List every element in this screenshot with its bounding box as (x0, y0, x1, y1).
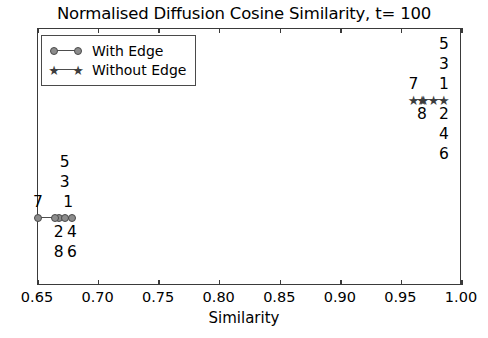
x-tick-mark-top (98, 28, 99, 33)
star-marker-icon: ★ ★ (49, 63, 83, 77)
chart-title: Normalised Diffusion Cosine Similarity, … (0, 4, 488, 23)
point-label: 8 (54, 245, 64, 261)
x-tick-label: 0.80 (193, 289, 245, 305)
legend-item-without-edge[interactable]: ★ ★ Without Edge (49, 60, 186, 79)
x-tick-mark-top (219, 28, 220, 33)
data-point-marker: ★ (428, 93, 440, 106)
x-tick-mark (98, 280, 99, 285)
circle-marker-icon (49, 44, 83, 58)
data-point-marker (68, 214, 76, 222)
legend-label-with-edge: With Edge (92, 43, 163, 59)
x-tick-label: 0.90 (314, 289, 366, 305)
data-point-marker (61, 214, 69, 222)
point-label: 2 (439, 107, 449, 123)
x-tick-mark-top (401, 28, 402, 33)
data-point-marker (51, 214, 59, 222)
x-tick-mark (340, 280, 341, 285)
point-label: 3 (60, 175, 70, 191)
point-label: 8 (417, 107, 427, 123)
legend-item-with-edge[interactable]: With Edge (49, 41, 186, 60)
point-label: 3 (439, 57, 449, 73)
x-tick-label: 0.70 (72, 289, 124, 305)
x-tick-label: 1.00 (435, 289, 487, 305)
x-tick-mark-top (37, 28, 38, 33)
x-tick-mark (219, 280, 220, 285)
point-label: 2 (54, 225, 64, 241)
point-label: 7 (409, 77, 419, 93)
x-tick-mark (280, 280, 281, 285)
x-tick-mark-top (461, 28, 462, 33)
point-label: 1 (439, 77, 449, 93)
x-tick-label: 0.75 (132, 289, 184, 305)
point-label: 6 (439, 147, 449, 163)
point-label: 4 (439, 127, 449, 143)
x-tick-mark (37, 280, 38, 285)
x-tick-mark (461, 280, 462, 285)
legend-label-without-edge: Without Edge (92, 62, 186, 78)
point-label: 6 (67, 245, 77, 261)
data-point-marker (34, 214, 42, 222)
point-label: 1 (63, 195, 73, 211)
chart-legend: With Edge ★ ★ Without Edge (41, 35, 196, 86)
chart-figure: Normalised Diffusion Cosine Similarity, … (0, 0, 488, 338)
x-tick-mark-top (158, 28, 159, 33)
point-label: 7 (33, 195, 43, 211)
x-tick-label: 0.65 (11, 289, 63, 305)
x-tick-mark-top (340, 28, 341, 33)
point-label: 4 (67, 225, 77, 241)
x-tick-label: 0.85 (253, 289, 305, 305)
plot-area: ★★★★★ 5371248653718246 With Edge ★ ★ Wit… (37, 28, 461, 285)
x-axis-label: Similarity (0, 309, 488, 327)
x-tick-mark-top (280, 28, 281, 33)
x-tick-mark (158, 280, 159, 285)
point-label: 5 (439, 37, 449, 53)
x-tick-mark (401, 280, 402, 285)
x-tick-label: 0.95 (374, 289, 426, 305)
point-label: 5 (60, 155, 70, 171)
